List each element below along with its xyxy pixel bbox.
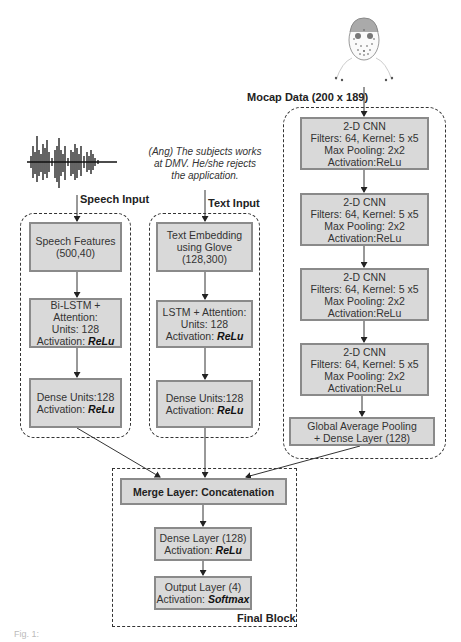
box-line: Bi-LSTM + Attention: [31,299,120,323]
box-line: Units: 128 [181,318,228,330]
box-line: Global Average Pooling [307,420,417,432]
box-line: LSTM + Attention: [163,306,247,318]
speech-input-label: Speech Input [80,193,149,205]
box-line: Activation: ReLu [37,335,115,347]
activation-function: ReLu [217,404,243,416]
final-block-label: Final Block [237,612,296,624]
waveform-icon [25,132,120,192]
text-sample: (Ang) The subjects works at DMV. He/she … [140,146,270,182]
lstm-attention-box: LSTM + Attention: Units: 128 Activation:… [156,300,253,348]
text-dense-box: Dense Units:128 Activation: ReLu [156,380,253,428]
text-sample-line: at DMV. He/she rejects [140,158,270,170]
box-line: (500,40) [56,247,95,259]
box-line: Dense Units:128 [37,391,115,403]
box-line: Filters: 64, Kernel: 5 x5 [311,358,419,370]
cnn-block-3: 2-D CNN Filters: 64, Kernel: 5 x5 Max Po… [300,268,429,321]
box-line: Speech Features [36,235,116,247]
activation-prefix: Activation: [164,544,215,556]
activation-function: ReLu [216,544,242,556]
box-line: Text Embedding [167,229,242,241]
output-layer-box: Output Layer (4) Activation: Softmax [154,576,252,610]
speech-dense-box: Dense Units:128 Activation: ReLu [29,378,122,428]
activation-prefix: Activation: [37,335,88,347]
box-line: Activation: ReLu [166,330,244,342]
activation-prefix: Activation: [37,403,88,415]
box-line: + Dense Layer (128) [314,432,410,444]
text-input-label: Text Input [208,197,260,209]
activation-prefix: Activation: [166,330,217,342]
box-line: 2-D CNN [343,346,386,358]
global-average-pooling-box: Global Average Pooling + Dense Layer (12… [289,417,435,446]
box-line: Filters: 64, Kernel: 5 x5 [311,283,419,295]
box-line: Activation:ReLu [328,232,402,244]
box-line: Max Pooling: 2x2 [324,295,405,307]
box-line: Filters: 64, Kernel: 5 x5 [311,132,419,144]
box-line: Max Pooling: 2x2 [324,370,405,382]
box-line: Max Pooling: 2x2 [324,220,405,232]
text-sample-line: the application. [140,170,270,182]
cnn-block-2: 2-D CNN Filters: 64, Kernel: 5 x5 Max Po… [300,193,429,246]
speech-features-box: Speech Features (500,40) [29,222,122,272]
face-markers-icon [328,12,400,84]
cnn-block-4: 2-D CNN Filters: 64, Kernel: 5 x5 Max Po… [300,343,429,396]
activation-prefix: Activation: [166,404,217,416]
final-dense-box: Dense Layer (128) Activation: ReLu [154,527,252,561]
box-line: Units: 128 [52,323,99,335]
box-line: Dense Units:128 [166,392,244,404]
figure-caption: Fig. 1: [14,629,39,639]
box-line: Filters: 64, Kernel: 5 x5 [311,208,419,220]
box-line: using Glove [177,241,232,253]
box-line: Activation: Softmax [157,593,250,605]
box-line: Activation: ReLu [166,404,244,416]
box-line: Output Layer (4) [165,581,241,593]
box-line: (128,300) [182,253,227,265]
activation-function: ReLu [217,330,243,342]
activation-function: Softmax [208,593,249,605]
box-line: Activation: ReLu [164,544,242,556]
box-line: Max Pooling: 2x2 [324,144,405,156]
text-embedding-box: Text Embedding using Glove (128,300) [156,222,253,272]
box-line: Dense Layer (128) [160,532,247,544]
text-sample-line: (Ang) The subjects works [140,146,270,158]
box-line: 2-D CNN [343,271,386,283]
activation-prefix: Activation: [157,593,208,605]
box-line: Activation:ReLu [328,156,402,168]
bilstm-attention-box: Bi-LSTM + Attention: Units: 128 Activati… [29,298,122,348]
cnn-block-1: 2-D CNN Filters: 64, Kernel: 5 x5 Max Po… [300,117,429,170]
box-line: Activation: ReLu [37,403,115,415]
activation-function: ReLu [88,403,114,415]
box-line: Activation:ReLu [328,382,402,394]
activation-function: ReLu [88,335,114,347]
mocap-input-label: Mocap Data (200 x 189) [247,91,368,103]
box-line: 2-D CNN [343,120,386,132]
box-line: 2-D CNN [343,196,386,208]
merge-layer-box: Merge Layer: Concatenation [120,478,287,505]
box-line: Activation:ReLu [328,307,402,319]
